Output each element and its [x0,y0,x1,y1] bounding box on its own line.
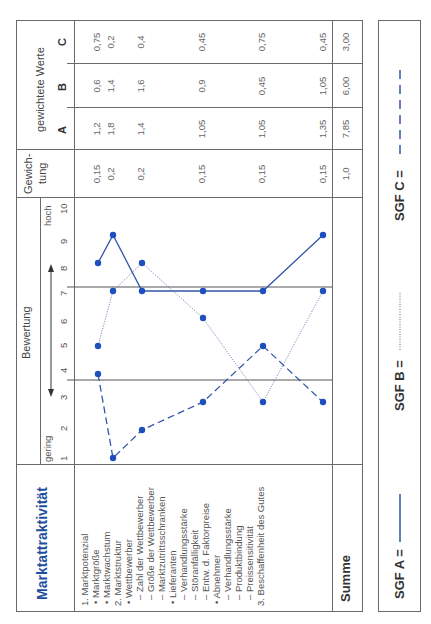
legend-solid-line-icon [398,492,402,542]
rotated-figure: Marktattraktivität Bewertung Gewich- tun… [0,0,431,624]
legend-dashed-line-icon [398,69,402,154]
sgf-c-line [98,346,323,458]
sgf-b-line [98,263,323,402]
profile-chart [0,0,431,624]
legend-sgf-b-label: SGF B = [392,360,407,411]
legend-dotted-line-icon [398,290,402,350]
legend-sgf-c-label: SGF C = [392,170,407,221]
legend-sgf-a-label: SGF A = [392,549,407,599]
sgf-a-line [98,235,323,291]
